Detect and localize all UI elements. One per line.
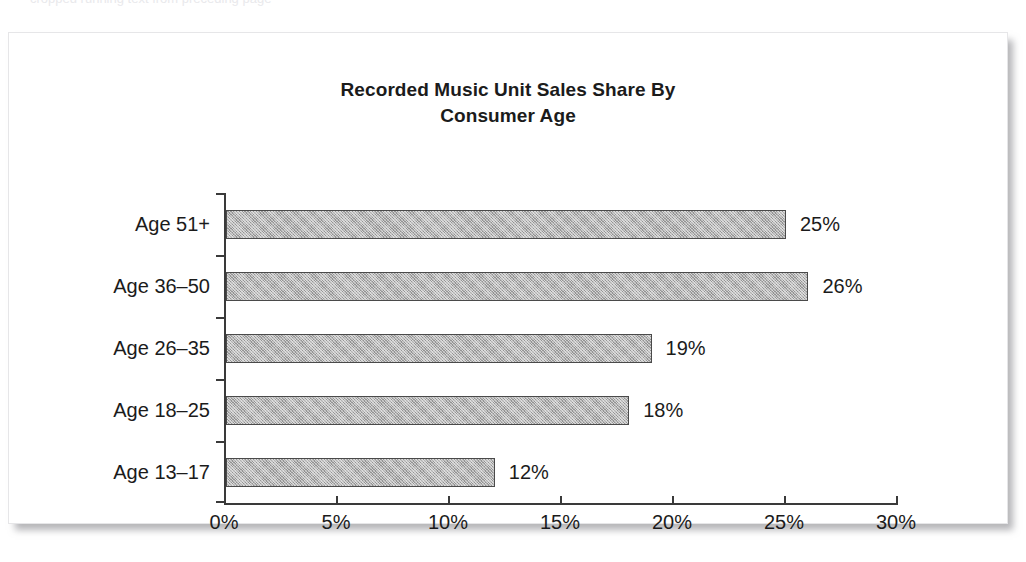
- bar-value-label: 26%: [822, 272, 862, 301]
- x-axis-tick: [896, 496, 898, 505]
- category-label: Age 13–17: [113, 458, 210, 487]
- x-axis-tick-label: 15%: [540, 511, 580, 534]
- figure-panel: Recorded Music Unit Sales Share By Consu…: [8, 32, 1008, 524]
- x-axis-tick-label: 0%: [210, 511, 239, 534]
- x-axis-tick: [784, 496, 786, 505]
- chart-title-line-2: Consumer Age: [9, 103, 1007, 129]
- x-axis-tick-label: 10%: [428, 511, 468, 534]
- bar-row: Age 36–5026%: [226, 255, 898, 317]
- x-axis-tick: [224, 496, 226, 505]
- category-label: Age 36–50: [113, 272, 210, 301]
- bar[interactable]: [226, 210, 786, 239]
- y-axis-tick: [216, 441, 225, 443]
- bar-value-label: 19%: [666, 334, 706, 363]
- bar-row: Age 26–3519%: [226, 317, 898, 379]
- bar[interactable]: [226, 458, 495, 487]
- category-label: Age 51+: [135, 210, 210, 239]
- y-axis-tick: [216, 317, 225, 319]
- bar-value-label: 12%: [509, 458, 549, 487]
- x-axis-tick-label: 30%: [876, 511, 916, 534]
- chart-title: Recorded Music Unit Sales Share By Consu…: [9, 77, 1007, 129]
- bar[interactable]: [226, 396, 629, 425]
- category-label: Age 26–35: [113, 334, 210, 363]
- y-axis-tick: [216, 379, 225, 381]
- x-axis-tick: [448, 496, 450, 505]
- y-axis-top-cap: [216, 193, 225, 195]
- bar-row: Age 18–2518%: [226, 379, 898, 441]
- x-axis-tick-label: 20%: [652, 511, 692, 534]
- x-axis-tick-label: 5%: [322, 511, 351, 534]
- bar[interactable]: [226, 272, 808, 301]
- bar[interactable]: [226, 334, 652, 363]
- cropped-text-line: cropped running text from preceding page: [30, 0, 990, 7]
- chart-title-line-1: Recorded Music Unit Sales Share By: [9, 77, 1007, 103]
- x-axis-tick: [672, 496, 674, 505]
- y-axis-tick: [216, 255, 225, 257]
- x-axis-tick-label: 25%: [764, 511, 804, 534]
- bar-row: Age 13–1712%: [226, 441, 898, 503]
- bar-value-label: 25%: [800, 210, 840, 239]
- category-label: Age 18–25: [113, 396, 210, 425]
- bar-value-label: 18%: [643, 396, 683, 425]
- x-axis-tick: [336, 496, 338, 505]
- bar-row: Age 51+25%: [226, 193, 898, 255]
- x-axis-tick: [560, 496, 562, 505]
- plot-area: Age 13–1712%Age 18–2518%Age 26–3519%Age …: [224, 193, 896, 503]
